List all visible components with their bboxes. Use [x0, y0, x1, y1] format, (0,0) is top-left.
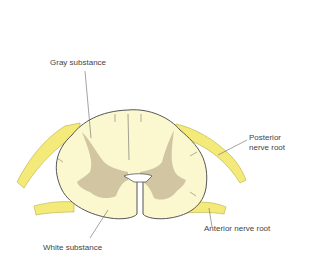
label-white-substance: White substance: [43, 243, 102, 253]
label-posterior-nerve-root-line1: Posterior: [249, 133, 281, 143]
left-anterior-nerve-root: [34, 202, 74, 215]
label-anterior-nerve-root: Anterior nerve root: [204, 224, 270, 234]
label-posterior-nerve-root-line2: nerve root: [249, 143, 285, 153]
label-gray-substance: Gray substance: [50, 58, 106, 68]
leader-line-posterior-nerve-root: [218, 140, 247, 155]
